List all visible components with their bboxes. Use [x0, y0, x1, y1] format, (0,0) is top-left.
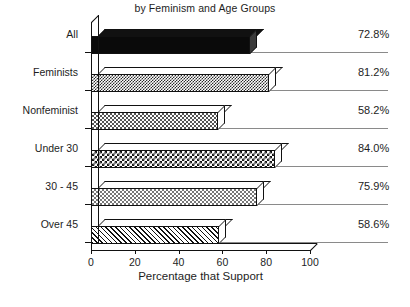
y-axis-back-line	[98, 15, 99, 243]
category-label: 30 - 45	[45, 180, 78, 192]
y-axis-tick	[85, 166, 91, 167]
bar-over-45[interactable]	[91, 219, 226, 244]
category-axis-labels: AllFeministsNonfeministUnder 3030 - 45Ov…	[0, 22, 82, 250]
y-axis-line	[91, 22, 92, 250]
bar-top-face	[98, 105, 232, 112]
bar-top-face	[98, 143, 289, 150]
bar-top-face	[98, 181, 271, 188]
bar-value-label: 72.8%	[358, 28, 389, 40]
bar-value-label: 84.0%	[358, 142, 389, 154]
x-axis-tick	[222, 250, 223, 254]
bar-nonfeminist[interactable]	[91, 105, 225, 130]
bar-front-face	[91, 150, 275, 168]
x-axis-tick-label: 40	[159, 256, 199, 268]
x-axis-tick	[310, 250, 311, 254]
bar-front-face	[91, 188, 257, 206]
x-axis-tick-label: 60	[202, 256, 242, 268]
bar-feminists[interactable]	[91, 67, 276, 92]
x-axis-tick	[266, 250, 267, 254]
value-labels: 72.8%81.2%58.2%84.0%75.9%58.6%	[330, 22, 410, 250]
chart-container: by Feminism and Age Groups AllFeministsN…	[0, 0, 410, 307]
bar-top-face	[98, 67, 283, 74]
x-axis-tick	[179, 250, 180, 254]
category-label: Over 45	[41, 218, 78, 230]
x-axis-back-line	[98, 243, 317, 244]
bar-front-face	[91, 36, 250, 54]
x-axis-tick-label: 80	[246, 256, 286, 268]
plot-area	[91, 22, 310, 250]
category-label: Feminists	[33, 66, 78, 78]
x-axis-line	[91, 250, 310, 251]
bar-front-face	[91, 74, 269, 92]
y-axis-tick	[85, 128, 91, 129]
category-label: All	[66, 28, 78, 40]
y-axis-tick	[85, 242, 91, 243]
bar-value-label: 75.9%	[358, 180, 389, 192]
x-axis-title: Percentage that Support	[91, 270, 310, 282]
bar-30---45[interactable]	[91, 181, 264, 206]
axis-depth-cap-icon	[91, 15, 99, 23]
bar-top-face	[98, 219, 233, 226]
bar-all[interactable]	[91, 29, 257, 54]
bar-front-face	[91, 112, 218, 130]
bar-under-30[interactable]	[91, 143, 282, 168]
x-axis-tick	[91, 250, 92, 254]
y-axis-tick	[85, 52, 91, 53]
category-label: Nonfeminist	[23, 104, 78, 116]
axis-depth-cap-right-icon	[310, 243, 318, 251]
y-axis-tick	[85, 90, 91, 91]
bar-value-label: 58.6%	[358, 218, 389, 230]
x-axis-tick-label: 20	[115, 256, 155, 268]
x-axis-tick-label: 0	[71, 256, 111, 268]
footnote	[6, 300, 410, 307]
bar-value-label: 81.2%	[358, 66, 389, 78]
bar-value-label: 58.2%	[358, 104, 389, 116]
bar-front-face	[91, 226, 219, 244]
category-label: Under 30	[35, 142, 78, 154]
x-axis-tick	[135, 250, 136, 254]
x-axis-tick-label: 100	[290, 256, 330, 268]
y-axis-tick	[85, 204, 91, 205]
bar-top-face	[98, 29, 264, 36]
chart-title: by Feminism and Age Groups	[0, 2, 410, 14]
